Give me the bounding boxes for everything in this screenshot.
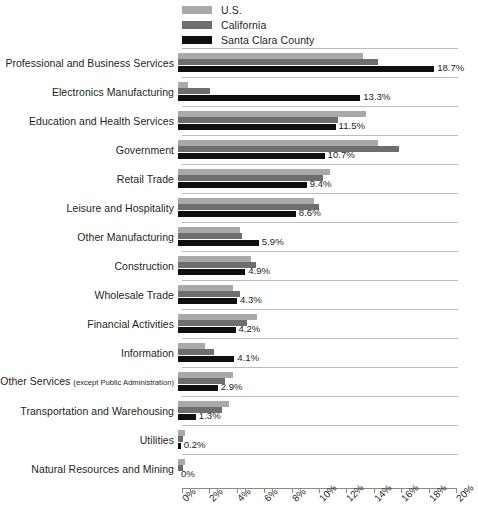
- category-label: Government: [0, 144, 178, 156]
- gridline: [182, 338, 458, 339]
- bar-us: [178, 53, 363, 59]
- chart-row: Retail Trade9.4%: [0, 164, 478, 193]
- chart-row: Leisure and Hospitality8.6%: [0, 193, 478, 222]
- chart-row: Other Manufacturing5.9%: [0, 222, 478, 251]
- chart-row: Utilities0.2%: [0, 425, 478, 454]
- bar-santa-clara-county: [178, 124, 336, 130]
- chart-plot-area: Professional and Business Services18.7%E…: [0, 48, 478, 488]
- bar-santa-clara-county: [178, 66, 434, 72]
- bar-value-label: 4.2%: [236, 324, 261, 334]
- bar-value-label: 4.9%: [245, 266, 270, 276]
- category-label-text: Education and Health Services: [29, 115, 174, 127]
- bar-value-label: 10.7%: [325, 150, 355, 160]
- chart-row: Natural Resources and Mining0%: [0, 454, 478, 483]
- category-label: Other Manufacturing: [0, 231, 178, 243]
- bar-us: [178, 169, 330, 175]
- bar-group: 4.9%: [178, 255, 474, 277]
- bar-us: [178, 285, 233, 291]
- category-label: Natural Resources and Mining: [0, 463, 178, 475]
- chart-row: Financial Activities4.2%: [0, 309, 478, 338]
- bar-us: [178, 401, 229, 407]
- chart-row: Professional and Business Services18.7%: [0, 48, 478, 77]
- category-label: Utilities: [0, 434, 178, 446]
- bar-us: [178, 198, 314, 204]
- bar-group: 18.7%: [178, 52, 474, 74]
- bar-california: [178, 175, 323, 181]
- category-label: Education and Health Services: [0, 115, 178, 127]
- x-axis: 0%2%4%6%8%10%12%14%16%18%20%: [0, 488, 478, 530]
- bar-us: [178, 227, 240, 233]
- bar-us: [178, 430, 185, 436]
- gridline: [182, 425, 458, 426]
- bar-santa-clara-county: [178, 356, 234, 362]
- chart-row: Transportation and Warehousing1.3%: [0, 396, 478, 425]
- category-label: Information: [0, 347, 178, 359]
- gridline: [182, 193, 458, 194]
- category-label: Wholesale Trade: [0, 289, 178, 301]
- bar-us: [178, 111, 366, 117]
- category-label: Transportation and Warehousing: [0, 405, 178, 417]
- bar-group: 5.9%: [178, 226, 474, 248]
- gridline: [182, 280, 458, 281]
- bar-group: 9.4%: [178, 168, 474, 190]
- chart-row: Government10.7%: [0, 135, 478, 164]
- bar-group: 11.5%: [178, 110, 474, 132]
- legend-swatch-icon: [182, 36, 212, 44]
- bar-santa-clara-county: [178, 269, 245, 275]
- chart-row: Information4.1%: [0, 338, 478, 367]
- bar-group: 10.7%: [178, 139, 474, 161]
- category-label: Professional and Business Services: [0, 57, 178, 69]
- bar-value-label: 0.2%: [181, 440, 206, 450]
- legend-swatch-icon: [182, 21, 212, 29]
- bar-value-label: 4.1%: [234, 353, 259, 363]
- bar-group: 13.3%: [178, 81, 474, 103]
- bar-value-label: 4.3%: [237, 295, 262, 305]
- chart-row: Other Services (except Public Administra…: [0, 367, 478, 396]
- bar-santa-clara-county: [178, 153, 325, 159]
- category-label: Financial Activities: [0, 318, 178, 330]
- legend-item-label: California: [221, 20, 266, 31]
- legend-item: California: [182, 18, 472, 32]
- category-label-subtext: (except Public Administration): [73, 378, 174, 387]
- legend-item-label: Santa Clara County: [221, 35, 314, 46]
- bar-value-label: 2.9%: [218, 382, 243, 392]
- category-label: Construction: [0, 260, 178, 272]
- bar-us: [178, 343, 205, 349]
- bar-group: 0%: [178, 458, 474, 480]
- bar-value-label: 8.6%: [296, 208, 321, 218]
- category-label-text: Retail Trade: [117, 173, 174, 185]
- bar-california: [178, 349, 214, 355]
- category-label-text: Natural Resources and Mining: [31, 463, 174, 475]
- category-label-text: Information: [121, 347, 174, 359]
- category-label-text: Professional and Business Services: [5, 57, 174, 69]
- chart-legend: U.S.CaliforniaSanta Clara County: [182, 3, 472, 48]
- bar-california: [178, 146, 399, 152]
- bar-group: 4.3%: [178, 284, 474, 306]
- category-label-text: Wholesale Trade: [94, 289, 174, 301]
- chart-row: Wholesale Trade4.3%: [0, 280, 478, 309]
- bar-value-label: 1.3%: [196, 411, 221, 421]
- gridline: [182, 367, 458, 368]
- category-label: Leisure and Hospitality: [0, 202, 178, 214]
- bar-santa-clara-county: [178, 385, 218, 391]
- category-label-text: Construction: [114, 260, 174, 272]
- bar-california: [178, 233, 242, 239]
- gridline: [182, 77, 458, 78]
- bar-group: 4.1%: [178, 342, 474, 364]
- bar-santa-clara-county: [178, 95, 360, 101]
- legend-swatch-icon: [182, 6, 212, 14]
- gridline: [182, 222, 458, 223]
- gridline: [182, 454, 458, 455]
- bar-california: [178, 291, 240, 297]
- bar-value-label: 9.4%: [307, 179, 332, 189]
- bar-california: [178, 59, 378, 65]
- bar-santa-clara-county: [178, 327, 236, 333]
- bar-california: [178, 88, 210, 94]
- bar-santa-clara-county: [178, 211, 296, 217]
- bar-value-label: 0%: [178, 469, 195, 479]
- bar-value-label: 5.9%: [259, 237, 284, 247]
- bar-us: [178, 140, 378, 146]
- category-label-text: Other Manufacturing: [77, 231, 174, 243]
- category-label-text: Utilities: [140, 434, 174, 446]
- bar-group: 0.2%: [178, 429, 474, 451]
